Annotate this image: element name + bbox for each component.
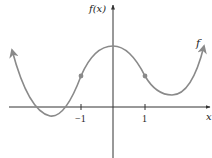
tick-label-pos1: 1	[142, 113, 147, 124]
point-x-pos1	[143, 74, 148, 79]
function-graph: f(x) f x −1 1	[0, 0, 212, 158]
curve-f	[12, 46, 204, 116]
y-axis-label: f(x)	[88, 3, 106, 14]
tick-label-neg1: −1	[75, 113, 86, 124]
curve-label: f	[195, 37, 202, 50]
x-axis-label: x	[206, 111, 212, 122]
point-x-neg1	[79, 74, 84, 79]
